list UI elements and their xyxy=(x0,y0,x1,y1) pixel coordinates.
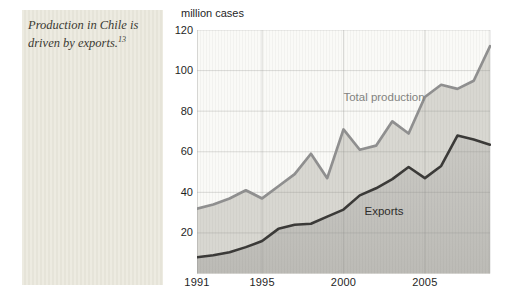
y-tick-label: 40 xyxy=(150,186,193,198)
footnote-ref: 13 xyxy=(118,35,126,44)
series-label-exports: Exports xyxy=(365,205,404,217)
plot-area xyxy=(197,30,491,274)
y-tick-label: 60 xyxy=(150,145,193,157)
y-tick-label: 20 xyxy=(150,226,193,238)
x-tick-label: 2005 xyxy=(412,276,437,288)
x-tick-label: 1991 xyxy=(184,276,209,288)
x-tick-label: 1995 xyxy=(249,276,274,288)
y-tick-label: 100 xyxy=(150,64,193,76)
x-tick-label: 2000 xyxy=(331,276,356,288)
y-tick-label: 120 xyxy=(150,24,193,36)
series-label-total-production: Total production xyxy=(343,91,424,103)
y-axis-unit-label: million cases xyxy=(181,7,244,19)
sidebar-note: Production in Chile is driven by exports… xyxy=(22,10,163,285)
figure: Production in Chile is driven by exports… xyxy=(0,0,513,300)
y-tick-label: 80 xyxy=(150,105,193,117)
note-text: Production in Chile is driven by exports… xyxy=(28,16,157,52)
